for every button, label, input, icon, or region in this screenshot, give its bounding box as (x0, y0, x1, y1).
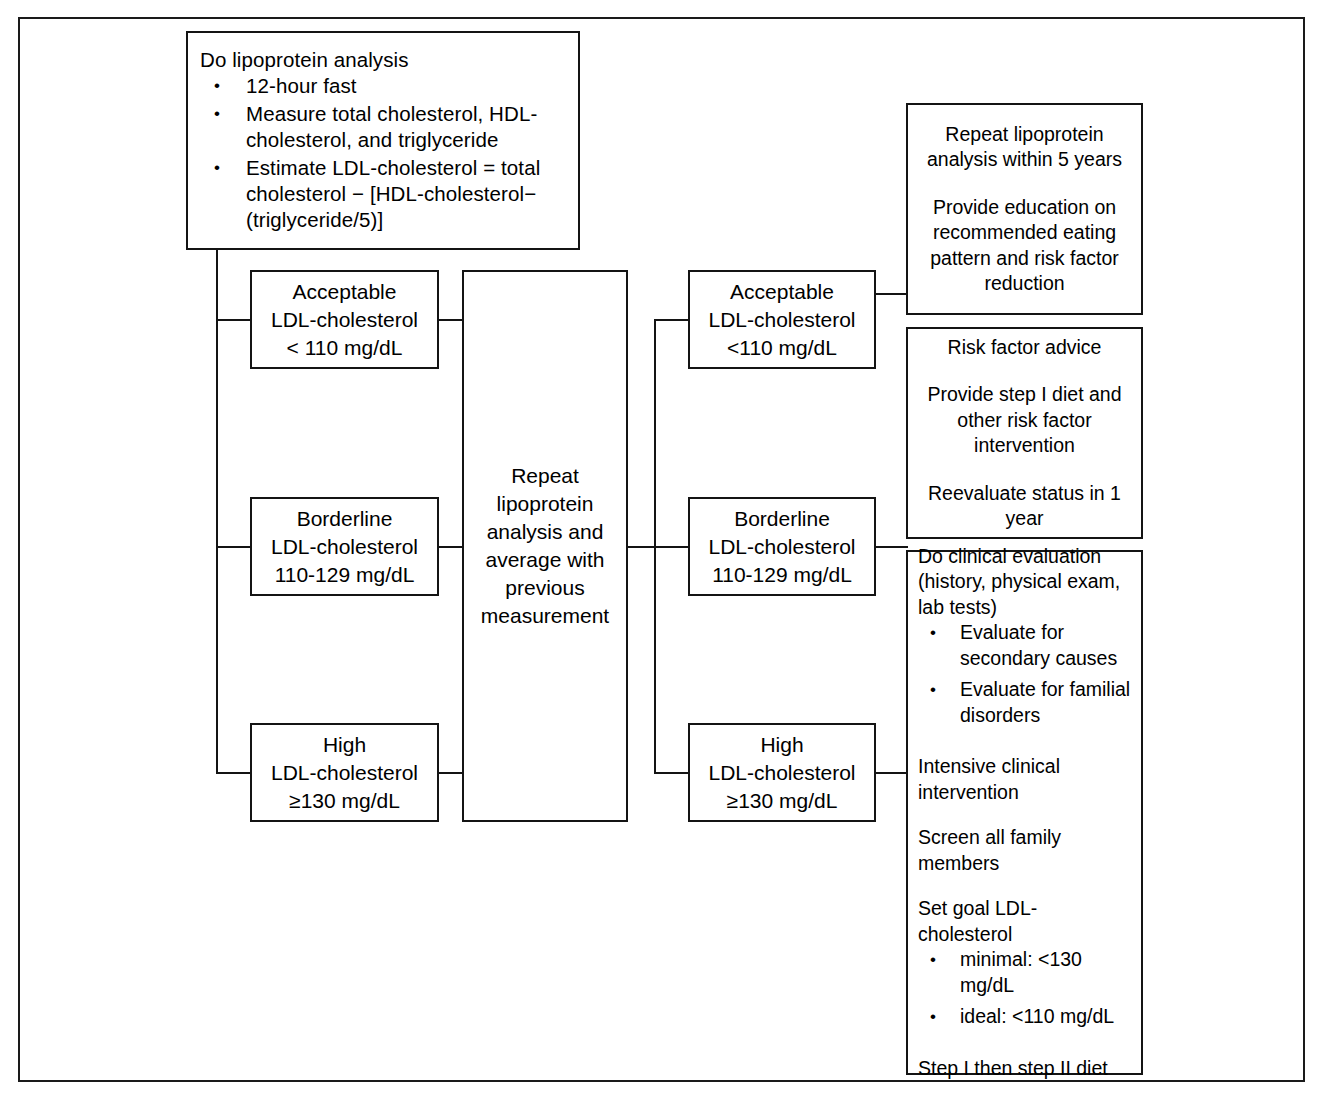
final-borderline-line-1: Borderline (690, 505, 874, 533)
outcome-borderline-spacer-2 (918, 459, 1131, 481)
start-bullet-list: 12-hour fast Measure total cholesterol, … (200, 73, 566, 233)
outcome-high-spacer-4 (918, 1036, 1131, 1056)
outcome-borderline-para-2: Provide step I diet and other risk facto… (918, 382, 1131, 459)
node-final-borderline[interactable]: Borderline LDL-cholesterol 110-129 mg/dL (688, 497, 876, 596)
initial-borderline-line-3: 110-129 mg/dL (252, 561, 437, 589)
node-outcome-high[interactable]: Do clinical evaluation (history, physica… (906, 550, 1143, 1075)
outcome-borderline-para-3: Reevaluate status in 1 year (918, 481, 1131, 532)
initial-acceptable-line-1: Acceptable (252, 278, 437, 306)
initial-acceptable-line-2: LDL-cholesterol (252, 306, 437, 334)
initial-high-line-3: ≥130 mg/dL (252, 787, 437, 815)
connector-initial-high-to-repeat (437, 772, 464, 774)
outcome-high-bullet-1: Evaluate for secondary causes (918, 620, 1131, 671)
final-high-line-1: High (690, 731, 874, 759)
outcome-high-bullet-list-2: minimal: <130 mg/dL ideal: <110 mg/dL (918, 947, 1131, 1030)
start-bullet-3: Estimate LDL-cholesterol = total cholest… (200, 155, 566, 233)
connector-final-spine-to-high (654, 772, 690, 774)
final-acceptable-line-1: Acceptable (690, 278, 874, 306)
initial-acceptable-line-3: < 110 mg/dL (252, 334, 437, 362)
outcome-high-spacer-1 (918, 734, 1131, 754)
initial-high-line-1: High (252, 731, 437, 759)
outcome-high-para-4: Set goal LDL-cholesterol (918, 896, 1131, 947)
outcome-high-spacer-3 (918, 876, 1131, 896)
final-high-line-2: LDL-cholesterol (690, 759, 874, 787)
final-borderline-line-2: LDL-cholesterol (690, 533, 874, 561)
outcome-high-para-1: Do clinical evaluation (history, physica… (918, 544, 1131, 621)
node-repeat-and-average[interactable]: Repeat lipoprotein analysis and average … (462, 270, 628, 822)
node-initial-acceptable[interactable]: Acceptable LDL-cholesterol < 110 mg/dL (250, 270, 439, 369)
final-high-line-3: ≥130 mg/dL (690, 787, 874, 815)
node-final-high[interactable]: High LDL-cholesterol ≥130 mg/dL (688, 723, 876, 822)
outcome-high-bullet-3: minimal: <130 mg/dL (918, 947, 1131, 998)
initial-borderline-line-2: LDL-cholesterol (252, 533, 437, 561)
connector-repeat-to-final-spine (626, 546, 656, 548)
final-acceptable-line-3: <110 mg/dL (690, 334, 874, 362)
outcome-high-bullet-list-1: Evaluate for secondary causes Evaluate f… (918, 620, 1131, 728)
node-do-lipoprotein-analysis[interactable]: Do lipoprotein analysis 12-hour fast Mea… (186, 31, 580, 250)
node-initial-borderline[interactable]: Borderline LDL-cholesterol 110-129 mg/dL (250, 497, 439, 596)
repeat-average-text: Repeat lipoprotein analysis and average … (464, 462, 626, 630)
node-outcome-borderline[interactable]: Risk factor advice Provide step I diet a… (906, 327, 1143, 539)
diagram-canvas: Do lipoprotein analysis 12-hour fast Mea… (0, 0, 1329, 1097)
initial-borderline-line-1: Borderline (252, 505, 437, 533)
outcome-acceptable-para-1: Repeat lipoprotein analysis within 5 yea… (918, 122, 1131, 173)
connector-spine-to-initial-acceptable (216, 319, 252, 321)
outcome-high-bullet-2: Evaluate for familial disorders (918, 677, 1131, 728)
outcome-high-spacer-2 (918, 805, 1131, 825)
start-bullet-2: Measure total cholesterol, HDL-cholester… (200, 101, 566, 153)
connector-final-spine-to-borderline (654, 546, 690, 548)
start-bullet-1: 12-hour fast (200, 73, 566, 99)
connector-final-high-to-outcome (874, 772, 908, 774)
connector-final-spine-to-acceptable (654, 319, 690, 321)
outcome-high-para-3: Screen all family members (918, 825, 1131, 876)
node-final-acceptable[interactable]: Acceptable LDL-cholesterol <110 mg/dL (688, 270, 876, 369)
outcome-high-bullet-4: ideal: <110 mg/dL (918, 1004, 1131, 1030)
connector-spine-to-initial-high (216, 772, 252, 774)
connector-final-borderline-to-outcome (874, 546, 908, 548)
connector-start-to-spine (216, 249, 218, 774)
outcome-borderline-para-1: Risk factor advice (918, 335, 1131, 361)
initial-high-line-2: LDL-cholesterol (252, 759, 437, 787)
outcome-borderline-spacer-1 (918, 360, 1131, 382)
connector-initial-acceptable-to-repeat (437, 319, 464, 321)
outcome-acceptable-spacer (918, 173, 1131, 195)
connector-spine-to-initial-borderline (216, 546, 252, 548)
node-initial-high[interactable]: High LDL-cholesterol ≥130 mg/dL (250, 723, 439, 822)
final-borderline-line-3: 110-129 mg/dL (690, 561, 874, 589)
final-acceptable-line-2: LDL-cholesterol (690, 306, 874, 334)
outcome-high-para-5: Step I then step II diet (918, 1056, 1131, 1082)
connector-initial-borderline-to-repeat (437, 546, 464, 548)
connector-final-acceptable-to-outcome (874, 293, 908, 295)
node-outcome-acceptable[interactable]: Repeat lipoprotein analysis within 5 yea… (906, 103, 1143, 315)
outcome-high-para-2: Intensive clinical intervention (918, 754, 1131, 805)
outcome-acceptable-para-2: Provide education on recommended eating … (918, 195, 1131, 297)
start-heading: Do lipoprotein analysis (200, 47, 566, 73)
